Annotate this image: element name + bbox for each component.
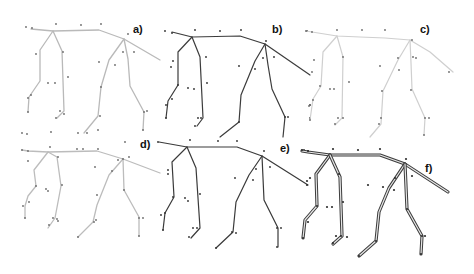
joint-marker-dot [263, 150, 265, 152]
joint-marker-dot [367, 184, 369, 186]
joint-marker-dot [98, 61, 100, 63]
joint-marker-dot [338, 173, 340, 175]
panel-label-c: c) [420, 23, 430, 35]
joint-marker-dot [162, 229, 164, 231]
joint-marker-dot [31, 27, 33, 29]
joint-marker-dot [62, 51, 64, 53]
joint-marker-dot [128, 156, 130, 158]
joint-marker-dot [172, 196, 174, 198]
joint-marker-dot [197, 117, 199, 119]
joint-marker-dot [379, 65, 381, 67]
joint-marker-dot [335, 235, 337, 237]
joint-marker-dot [381, 90, 383, 92]
joint-marker-dot [423, 134, 425, 136]
joint-marker-dot [80, 24, 82, 26]
joint-marker-dot [397, 57, 399, 59]
joint-marker-dot [329, 88, 331, 90]
joint-marker-dot [420, 253, 422, 255]
joint-marker-dot [127, 33, 129, 35]
joint-marker-dot [192, 227, 194, 229]
joint-marker-dot [146, 110, 148, 112]
joint-marker-dot [311, 31, 313, 33]
joint-marker-dot [63, 113, 65, 115]
joint-marker-dot [252, 179, 254, 181]
joint-marker-dot [172, 60, 174, 62]
joint-marker-dot [184, 197, 186, 199]
joint-marker-dot [406, 208, 408, 210]
joint-marker-dot [97, 129, 99, 131]
joint-marker-dot [111, 170, 113, 172]
joint-marker-dot [170, 66, 172, 68]
joint-marker-dot [428, 117, 430, 119]
joint-marker-dot [276, 227, 278, 229]
joint-marker-dot [273, 56, 275, 58]
joint-marker-dot [25, 26, 27, 28]
joint-marker-dot [393, 189, 395, 191]
joint-marker-dot [138, 235, 140, 237]
panel-label-b: b) [272, 23, 283, 35]
joint-marker-dot [238, 121, 240, 123]
joint-marker-dot [215, 247, 217, 249]
joint-marker-dot [189, 139, 191, 141]
joint-marker-dot [177, 84, 179, 86]
joint-marker-dot [124, 141, 126, 143]
joint-marker-dot [319, 85, 321, 87]
joint-marker-dot [188, 236, 190, 238]
joint-marker-dot [67, 76, 69, 78]
joint-marker-dot [27, 111, 29, 113]
joint-marker-dot [59, 110, 61, 112]
joint-marker-dot [56, 218, 58, 220]
joint-marker-dot [193, 88, 195, 90]
panel-label-f: f) [425, 162, 433, 174]
joint-marker-dot [21, 132, 23, 134]
joint-marker-dot [171, 32, 173, 34]
joint-marker-dot [287, 116, 289, 118]
joint-marker-dot [97, 148, 99, 150]
joint-marker-dot [133, 51, 135, 53]
joint-marker-dot [95, 219, 97, 221]
joint-marker-dot [348, 81, 350, 83]
joint-marker-dot [306, 180, 308, 182]
joint-marker-dot [76, 148, 78, 150]
joint-marker-dot [99, 115, 101, 117]
joint-marker-dot [240, 29, 242, 31]
joint-marker-dot [394, 177, 396, 179]
joint-marker-dot [307, 150, 309, 152]
joint-marker-dot [28, 201, 30, 203]
joint-marker-dot [55, 117, 57, 119]
joint-marker-dot [331, 206, 333, 208]
joint-marker-dot [206, 82, 208, 84]
joint-marker-dot [77, 132, 79, 134]
joint-marker-dot [194, 125, 196, 127]
joint-marker-dot [333, 88, 335, 90]
joint-marker-dot [384, 29, 386, 31]
joint-marker-dot [424, 117, 426, 119]
joint-marker-dot [122, 51, 124, 53]
joint-marker-dot [231, 231, 233, 233]
joint-marker-dot [167, 169, 169, 171]
joint-marker-dot [27, 150, 29, 152]
panel-label-d: d) [140, 138, 151, 150]
panel-label-e: e) [280, 142, 290, 154]
joint-marker-dot [48, 224, 50, 226]
joint-marker-dot [171, 98, 173, 100]
joint-marker-dot [82, 148, 84, 150]
joint-marker-dot [100, 23, 102, 25]
joint-marker-dot [117, 159, 119, 161]
joint-marker-dot [143, 111, 145, 113]
joint-marker-dot [421, 235, 423, 237]
joint-marker-dot [52, 217, 54, 219]
joint-marker-dot [138, 217, 140, 219]
joint-marker-dot [276, 246, 278, 248]
joint-marker-dot [284, 116, 286, 118]
joint-marker-dot [96, 194, 98, 196]
joint-marker-dot [326, 206, 328, 208]
joint-marker-dot [205, 56, 207, 58]
joint-marker-dot [47, 190, 49, 192]
joint-marker-dot [234, 177, 236, 179]
joint-marker-dot [405, 158, 407, 160]
joint-marker-dot [312, 99, 314, 101]
joint-marker-dot [165, 117, 167, 119]
joint-marker-dot [54, 82, 56, 84]
joint-marker-dot [199, 193, 201, 195]
